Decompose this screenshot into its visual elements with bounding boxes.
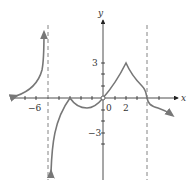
curve-middle-dip [70,98,103,108]
curve-left-branch [16,33,44,96]
tick-label-3: 3 [92,58,98,68]
open-point-origin [101,96,105,100]
x-axis-label: x [181,93,186,103]
tick-label-2: 2 [123,103,129,113]
curve-middle-right [103,63,147,98]
y-axis-label: y [97,8,104,18]
curve-right-branch [147,98,172,115]
curve-middle-left [51,98,70,172]
tick-label-neg6: −6 [28,103,42,113]
tick-label-0: 0 [106,103,112,113]
tick-label-neg3: −3 [88,128,102,138]
function-graph: x y −6 0 2 3 −3 [0,0,195,190]
